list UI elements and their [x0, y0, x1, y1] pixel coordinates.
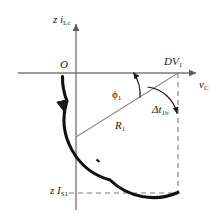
diagram-canvas	[0, 0, 222, 217]
dv1-label-sub: 1	[179, 61, 183, 69]
z-is1-label-sub: S1	[61, 190, 68, 198]
dashed-construction-group	[69, 73, 178, 193]
delta-t1b-label-sub: 1b	[162, 109, 169, 117]
phi1-angle-label: ϕ1	[112, 89, 121, 102]
radius-label-base: R	[115, 119, 122, 131]
y-axis-label: z iLc	[53, 14, 71, 27]
dv1-label: DV1	[164, 56, 182, 69]
z-is1-label-base: z I	[50, 184, 61, 196]
y-axis-label-sub: Lc	[63, 19, 70, 27]
state-plane-figure: z iLc vC O DV1 ϕ1 Δt1b R1 z IS1	[0, 0, 222, 217]
z-is1-label: z IS1	[50, 185, 68, 198]
dv1-label-base: DV	[164, 55, 179, 67]
y-axis-label-base: z i	[53, 13, 63, 25]
radius-r1-label: R1	[115, 120, 125, 133]
radius-label-sub: 1	[122, 125, 126, 133]
delta-t1b-angle-label: Δt1b	[152, 104, 169, 117]
x-axis-label-sub: C	[204, 84, 209, 92]
x-axis-label: vC	[199, 79, 209, 92]
delta-t1b-label-base: Δt	[152, 103, 162, 115]
angle-arc-phi1	[134, 73, 141, 98]
origin-label: O	[60, 59, 68, 70]
phi1-label-sub: 1	[118, 94, 122, 102]
trajectory-midpoint-tick	[97, 160, 100, 163]
